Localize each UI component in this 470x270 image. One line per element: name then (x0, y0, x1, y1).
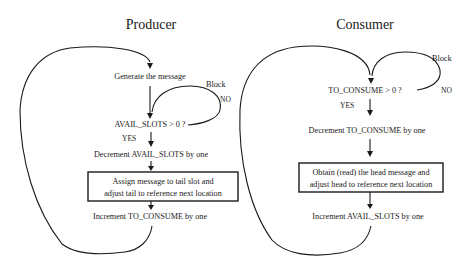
producer-arrowhead-icon (147, 113, 153, 119)
consumer-block-loop (372, 52, 440, 90)
producer-arrowhead-icon (148, 166, 154, 171)
consumer-arrowhead-icon (367, 204, 373, 209)
producer-title: Producer (126, 17, 177, 32)
consumer-yes-label: YES (340, 101, 354, 110)
consumer-decrement-step: Decrement TO_CONSUME by one (309, 126, 426, 135)
consumer-flowchart: Consumer Block NO TO_CONSUME > 0 ? YES D… (240, 17, 453, 255)
consumer-no-label: NO (441, 86, 452, 95)
producer-generate-step: Generate the message (114, 72, 186, 81)
consumer-arrowhead-icon (367, 110, 373, 116)
consumer-merge-arrowhead-icon (368, 78, 374, 84)
producer-arrowhead-icon (148, 205, 154, 210)
producer-check-step: AVAIL_SLOTS > 0 ? (115, 120, 186, 129)
consumer-obtain-line1: Obtain (read) the head message and (312, 168, 429, 177)
producer-block-label: Block (206, 80, 226, 89)
consumer-arrowhead-icon (367, 151, 373, 157)
producer-yes-label: YES (122, 134, 136, 143)
producer-arrowhead-icon (148, 141, 154, 147)
producer-assign-line1: Assign message to tail slot and (112, 177, 213, 186)
producer-assign-line2: adjust tail to reference next location (104, 189, 222, 198)
consumer-block-label: Block (432, 54, 452, 63)
consumer-title: Consumer (336, 17, 394, 32)
consumer-check-step: TO_CONSUME > 0 ? (328, 86, 402, 95)
consumer-increment-step: Increment AVAIL_SLOTS by one (312, 212, 424, 221)
producer-decrement-step: Decrement AVAIL_SLOTS by one (94, 150, 208, 159)
producer-increment-step: Increment TO_CONSUME by one (93, 212, 207, 221)
consumer-loop-arrow (240, 46, 371, 255)
producer-no-label: NO (220, 95, 231, 104)
producer-loop-arrowhead-icon (147, 63, 153, 69)
consumer-obtain-line2: adjust head to reference next location (310, 180, 433, 189)
flowchart-canvas: Producer Generate the message Block NO A… (0, 0, 470, 270)
producer-flowchart: Producer Generate the message Block NO A… (20, 17, 238, 254)
